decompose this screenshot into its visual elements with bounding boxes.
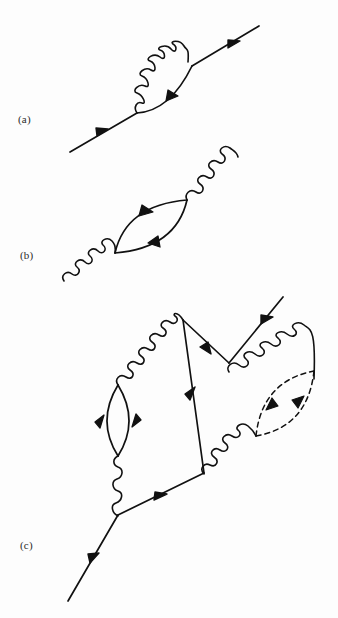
- feynman-figure: (a) (b) (c): [0, 0, 338, 618]
- panel-label-a: (a): [18, 113, 31, 125]
- feynman-diagram-canvas: [0, 0, 338, 618]
- panel-label-b: (b): [20, 249, 33, 261]
- panel-label-c: (c): [20, 539, 33, 551]
